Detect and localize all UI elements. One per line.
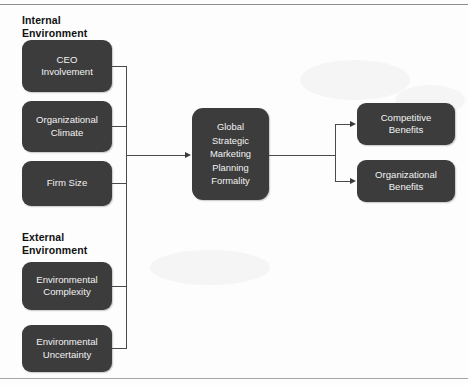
connector-stub-environmental-complexity xyxy=(112,286,126,287)
node-competitive-benefits[interactable]: Competitive Benefits xyxy=(357,103,455,145)
node-environmental-uncertainty[interactable]: Environmental Uncertainty xyxy=(22,325,112,372)
section-heading-external: External Environment xyxy=(22,231,87,256)
node-organizational-climate[interactable]: Organizational Climate xyxy=(22,101,112,152)
connector-stub-environmental-uncertainty xyxy=(112,348,126,349)
node-organizational-benefits[interactable]: Organizational Benefits xyxy=(357,160,455,202)
section-heading-internal: Internal Environment xyxy=(22,14,87,39)
node-firm-size[interactable]: Firm Size xyxy=(22,161,112,206)
node-ceo-involvement[interactable]: CEO Involvement xyxy=(22,40,112,92)
arrowhead-into-construct xyxy=(185,152,191,158)
connector-to-competitive-benefits xyxy=(335,124,351,125)
connector-to-organizational-benefits xyxy=(335,181,351,182)
connector-bus-outcomes xyxy=(335,124,336,182)
connector-bus-antecedents xyxy=(126,66,127,349)
connector-stub-organizational-climate xyxy=(112,126,126,127)
scan-artifact xyxy=(300,60,410,100)
bottom-divider-rule xyxy=(0,378,468,379)
top-divider-rule xyxy=(0,4,468,5)
connector-construct-to-outcomes xyxy=(269,155,335,156)
arrowhead-into-competitive-benefits xyxy=(350,121,356,127)
arrowhead-into-organizational-benefits xyxy=(350,178,356,184)
scan-artifact xyxy=(150,250,270,285)
connector-stub-ceo-involvement xyxy=(112,66,126,67)
connector-stub-firm-size xyxy=(112,183,126,184)
connector-antecedents-to-construct xyxy=(126,155,186,156)
node-global-strategic-marketing-planning-formality[interactable]: Global Strategic Marketing Planning Form… xyxy=(192,108,269,200)
node-environmental-complexity[interactable]: Environmental Complexity xyxy=(22,262,112,310)
figure-canvas: Internal Environment External Environmen… xyxy=(0,0,468,385)
